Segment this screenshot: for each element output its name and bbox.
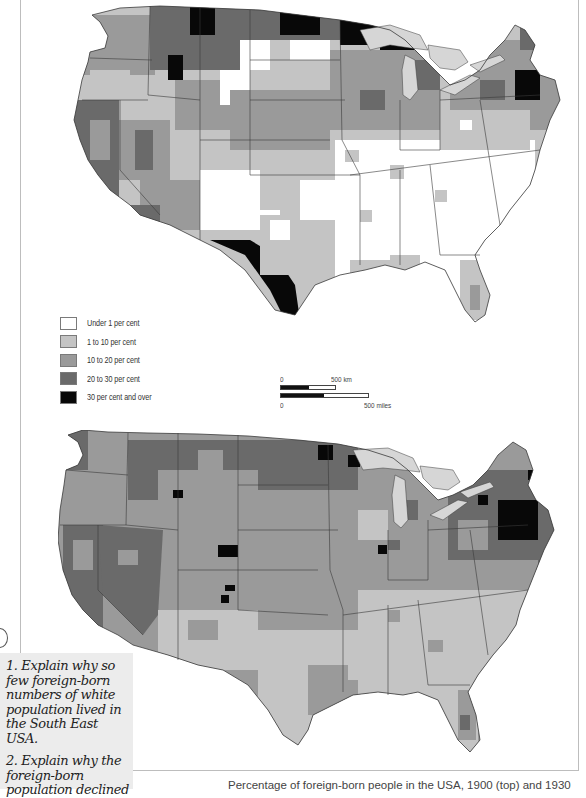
legend-item-under-1: Under 1 per cent <box>60 314 163 333</box>
legend-label: Under 1 per cent <box>87 318 139 328</box>
legend-swatch-10-to-20 <box>60 354 77 367</box>
legend-label: 10 to 20 per cent <box>87 355 140 365</box>
question-box: 1. Explain why so few foreign-born numbe… <box>0 653 133 789</box>
map-1930-svg <box>58 430 578 770</box>
scale-km-end: 500 km <box>331 375 352 384</box>
map-1900 <box>60 0 570 330</box>
question-marker-circle <box>0 628 8 648</box>
scale-miles-start: 0 <box>280 401 284 410</box>
legend-item-20-to-30: 20 to 30 per cent <box>60 370 163 389</box>
legend-swatch-under-1 <box>60 317 77 330</box>
map-1930 <box>58 430 578 770</box>
scale-km-bar <box>280 385 336 390</box>
scale-miles-bar <box>280 393 369 398</box>
legend-item-1-to-10: 1 to 10 per cent <box>60 333 163 352</box>
legend-label: 20 to 30 per cent <box>87 374 140 384</box>
map-1900-svg <box>60 0 570 330</box>
scale-bar: 0 500 km 0 500 miles <box>280 381 390 411</box>
question-2: 2. Explain why the foreign-born populati… <box>6 754 133 798</box>
scale-km-start: 0 <box>280 375 284 384</box>
question-1: 1. Explain why so few foreign-born numbe… <box>6 659 133 746</box>
figure-caption: Percentage of foreign-born people in the… <box>228 779 571 791</box>
map-legend: Under 1 per cent 1 to 10 per cent 10 to … <box>60 314 163 407</box>
legend-swatch-20-to-30 <box>60 372 77 385</box>
legend-label: 30 per cent and over <box>87 392 152 402</box>
legend-item-10-to-20: 10 to 20 per cent <box>60 351 163 370</box>
legend-swatch-1-to-10 <box>60 335 77 348</box>
scale-miles-end: 500 miles <box>364 401 391 410</box>
legend-item-30-and-over: 30 per cent and over <box>60 388 163 407</box>
legend-label: 1 to 10 per cent <box>87 337 136 347</box>
legend-swatch-30-and-over <box>60 391 77 404</box>
